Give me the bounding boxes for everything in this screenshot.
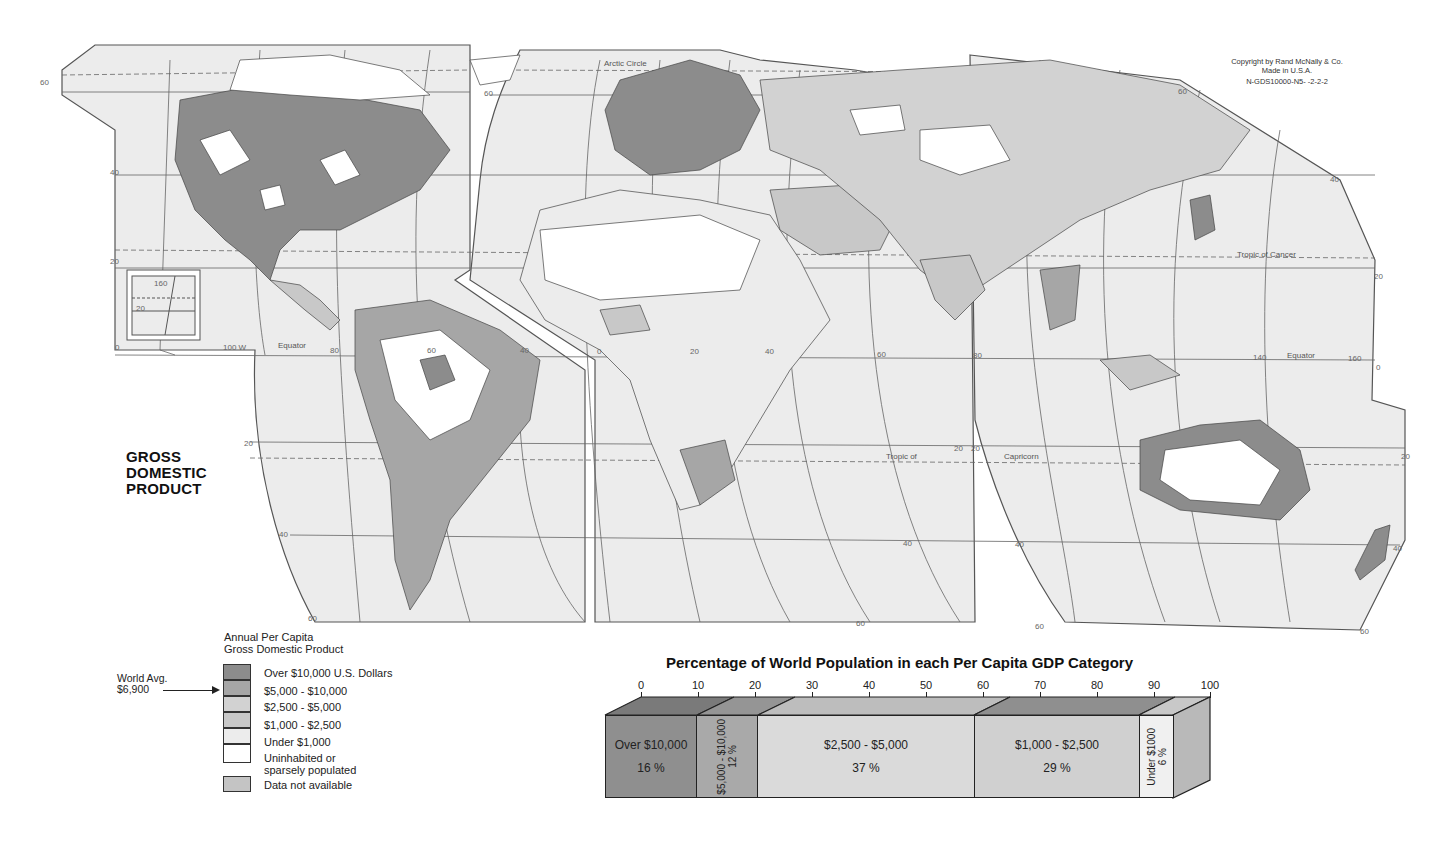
lat-label: 60 <box>40 78 49 87</box>
map-code: N-GDS10000-N5- -2-2-2 <box>1212 77 1362 86</box>
lat-label: 20 <box>971 444 980 453</box>
legend-title: Annual Per Capita Gross Domestic Product <box>224 631 343 655</box>
title-line: DOMESTIC <box>126 465 207 481</box>
legend-label: sparsely populated <box>264 764 356 776</box>
world-avg-value: $6,900 <box>117 684 167 695</box>
axis-tick-label: 10 <box>692 679 704 691</box>
legend-label: Data not available <box>264 779 352 791</box>
axis-tick-label: 40 <box>863 679 875 691</box>
equator-label-west: Equator <box>278 341 306 350</box>
axis-tick-label: 60 <box>977 679 989 691</box>
legend-label: $1,000 - $2,500 <box>264 719 341 731</box>
lon-label: 20 <box>690 347 699 356</box>
made-in-line: Made in U.S.A. <box>1212 66 1362 75</box>
lon-label: 0 <box>597 347 601 356</box>
segment-value: 6 % <box>1157 748 1168 765</box>
lat-label: 40 <box>110 168 119 177</box>
lon-label: 40 <box>520 346 529 355</box>
legend-swatch-under-1000 <box>223 728 251 744</box>
title-line: GROSS <box>126 449 207 465</box>
lon-label: 60 <box>427 346 436 355</box>
lon-label: 60 <box>877 350 886 359</box>
lat-label: 40 <box>279 530 288 539</box>
bar-segment-5000-10000: $5,000 - $10,000 12 % <box>696 715 758 798</box>
legend-swatch-5000-10000 <box>223 680 251 696</box>
title-line: PRODUCT <box>126 481 207 497</box>
lat-label: 60 <box>308 614 317 623</box>
axis-tick-label: 0 <box>638 679 644 691</box>
axis-tick-label: 30 <box>806 679 818 691</box>
lon-label: 100 W <box>223 343 246 352</box>
arctic-circle-label: Arctic Circle <box>604 59 647 68</box>
chart-title: Percentage of World Population in each P… <box>666 654 1133 671</box>
bar-segment-under-1000: Under $1000 6 % <box>1139 715 1174 798</box>
legend-swatch-1000-2500 <box>223 712 251 728</box>
lon-label: 80 <box>973 351 982 360</box>
lat-label: 20 <box>1374 272 1383 281</box>
lat-label: 20 <box>110 257 119 266</box>
legend-label: $2,500 - $5,000 <box>264 701 341 713</box>
lat-label: 60 <box>1035 622 1044 631</box>
axis-tick-label: 90 <box>1148 679 1160 691</box>
segment-value: 37 % <box>852 761 879 775</box>
axis-tick-label: 70 <box>1034 679 1046 691</box>
lon-label: 140 <box>1253 353 1266 362</box>
tropic-of-label: Tropic of <box>886 452 917 461</box>
legend-swatch-over-10000 <box>223 664 251 680</box>
bar-segment-1000-2500: $1,000 - $2,500 29 % <box>974 715 1140 798</box>
axis-tick-label: 100 <box>1201 679 1219 691</box>
legend-swatch-no-data <box>223 776 251 792</box>
segment-label: $2,500 - $5,000 <box>824 738 908 752</box>
lat-label: 60 <box>856 619 865 628</box>
segment-label: Under $1000 <box>1146 728 1157 786</box>
lat-label: 40 <box>1015 540 1024 549</box>
lon-label: 160 <box>1348 354 1361 363</box>
inset-lon-label: 160 <box>154 279 167 288</box>
segment-value: 12 % <box>727 745 738 768</box>
legend-label: $5,000 - $10,000 <box>264 685 347 697</box>
segment-label: $1,000 - $2,500 <box>1015 738 1099 752</box>
world-average-label: World Avg. $6,900 <box>117 673 167 695</box>
map-title: GROSS DOMESTIC PRODUCT <box>126 449 207 497</box>
lat-label: 60 <box>484 89 493 98</box>
bar-segment-over-10000: Over $10,000 16 % <box>605 715 697 798</box>
lat-label: 40 <box>1393 544 1402 553</box>
equator-label-east: Equator <box>1287 351 1315 360</box>
capricorn-label: Capricorn <box>1004 452 1039 461</box>
lat-label: 0 <box>115 343 119 352</box>
lat-label: 20 <box>954 444 963 453</box>
legend-label: Uninhabited or <box>264 752 336 764</box>
lat-label: 60 <box>1178 87 1187 96</box>
lat-label: 60 <box>1360 627 1369 636</box>
legend-title-line: Annual Per Capita <box>224 631 343 643</box>
lat-label: 20 <box>1401 452 1410 461</box>
legend-swatch-2500-5000 <box>223 696 251 712</box>
lat-label: 40 <box>903 539 912 548</box>
world-map <box>0 0 1437 640</box>
segment-label: $5,000 - $10,000 <box>716 719 727 795</box>
bar-segment-2500-5000: $2,500 - $5,000 37 % <box>757 715 975 798</box>
tropic-of-cancer-label: Tropic of Cancer <box>1237 250 1296 259</box>
axis-tick-label: 50 <box>920 679 932 691</box>
segment-value: 16 % <box>637 761 664 775</box>
copyright-line: Copyright by Rand McNally & Co. <box>1212 57 1362 66</box>
axis-tick-label: 20 <box>749 679 761 691</box>
legend-title-line: Gross Domestic Product <box>224 643 343 655</box>
lon-label: 80 <box>330 346 339 355</box>
lon-label: 40 <box>765 347 774 356</box>
segment-value: 29 % <box>1043 761 1070 775</box>
world-avg-arrow-icon <box>163 690 218 691</box>
inset-lat-label: 20 <box>136 304 145 313</box>
lat-label: 20 <box>244 439 253 448</box>
lat-label: 0 <box>1376 363 1380 372</box>
axis-tick-label: 80 <box>1091 679 1103 691</box>
lat-label: 40 <box>1330 175 1339 184</box>
legend-label: Under $1,000 <box>264 736 331 748</box>
legend-label: Over $10,000 U.S. Dollars <box>264 667 392 679</box>
copyright-notice: Copyright by Rand McNally & Co. Made in … <box>1212 57 1362 86</box>
segment-label: Over $10,000 <box>615 738 688 752</box>
legend-swatch-uninhabited <box>223 744 251 763</box>
